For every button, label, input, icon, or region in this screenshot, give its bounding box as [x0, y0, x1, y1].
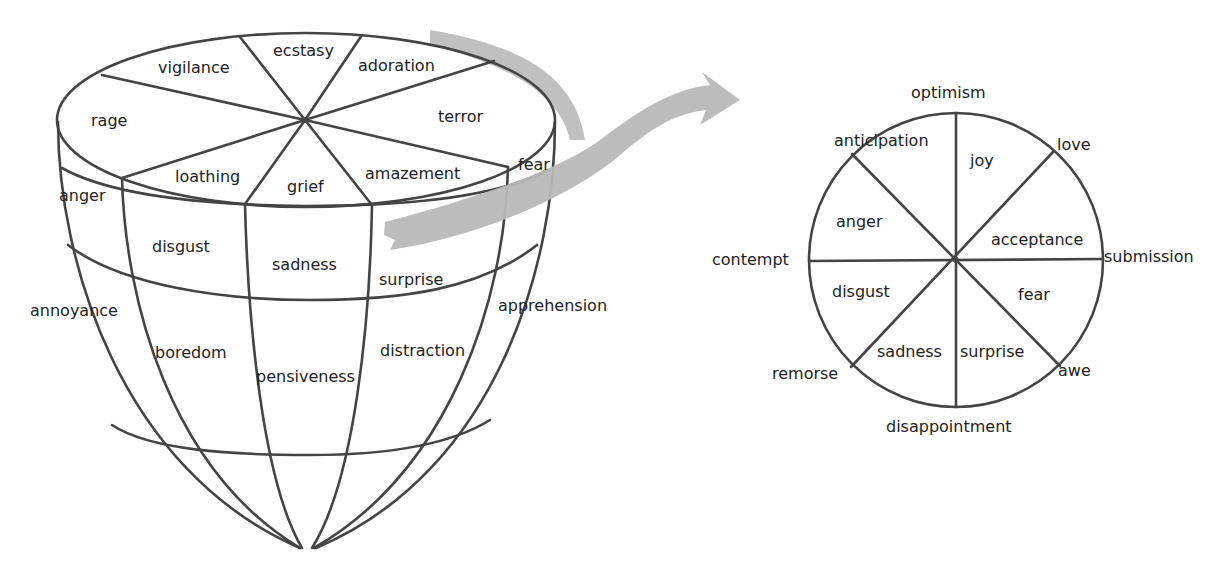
label-sadness: sadness — [272, 255, 337, 274]
label-boredom: boredom — [155, 343, 227, 362]
label-rage: rage — [91, 111, 127, 130]
label-distraction: distraction — [380, 341, 465, 360]
wheel-label-disappointment: disappointment — [886, 417, 1012, 436]
label-amazement: amazement — [365, 164, 460, 183]
label-anger: anger — [59, 186, 106, 205]
wheel-label-optimism: optimism — [911, 83, 986, 102]
label-apprehension: apprehension — [498, 296, 607, 315]
label-annoyance: annoyance — [30, 301, 118, 320]
wheel-label-joy: joy — [969, 151, 994, 170]
wheel-label-sadness: sadness — [877, 342, 942, 361]
label-loathing: loathing — [175, 167, 240, 186]
wheel-label-awe: awe — [1058, 361, 1091, 380]
label-ecstasy: ecstasy — [273, 41, 334, 60]
wheel-label-anger: anger — [836, 212, 883, 231]
wheel-label-fear: fear — [1018, 285, 1050, 304]
label-vigilance: vigilance — [158, 58, 230, 77]
wheel-label-submission: submission — [1104, 247, 1194, 266]
label-pensiveness: pensiveness — [256, 367, 355, 386]
cone-labels: ecstasy vigilance adoration rage terror … — [30, 41, 607, 386]
wheel-label-contempt: contempt — [712, 250, 789, 269]
wheel-label-surprise: surprise — [960, 342, 1024, 361]
label-grief: grief — [287, 177, 324, 196]
wheel-label-remorse: remorse — [772, 364, 838, 383]
wheel-label-acceptance: acceptance — [991, 230, 1083, 249]
label-disgust: disgust — [152, 237, 210, 256]
emotion-model-diagram: ecstasy vigilance adoration rage terror … — [0, 0, 1229, 583]
label-surprise: surprise — [379, 270, 443, 289]
label-terror: terror — [438, 107, 483, 126]
wheel-label-love: love — [1057, 135, 1091, 154]
wheel-label-anticipation: anticipation — [834, 131, 929, 150]
label-fear: fear — [518, 155, 550, 174]
label-adoration: adoration — [358, 56, 435, 75]
wheel-label-disgust: disgust — [832, 282, 890, 301]
